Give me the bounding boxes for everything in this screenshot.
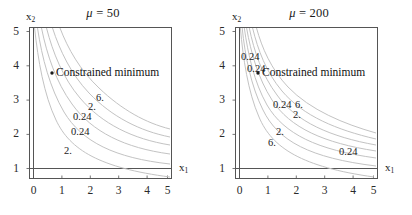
panel-left-xtick-2: 2 [83, 184, 97, 196]
panel-right-minimum-annotation: Constrained minimum [262, 66, 365, 78]
panel-right-xtick-5: 5 [367, 184, 381, 196]
panel-right-contour-label-024b: 0.24 [247, 63, 265, 74]
panel-left-plot [0, 0, 206, 215]
panel-left-contour-label-024b: 0.24 [71, 126, 89, 137]
panel-left-x-axis-label: x1 [179, 161, 188, 173]
panel-right-contour-label-024c: 0.24 [273, 99, 291, 110]
panel-left-contour-label-024a: 0.24 [73, 111, 91, 122]
panel-left-xtick-1: 1 [55, 184, 69, 196]
panel-left-minimum-annotation: Constrained minimum [56, 66, 159, 78]
panel-left-y-axis-label: x2 [26, 10, 35, 22]
panel-left-xtick-3: 3 [112, 184, 126, 196]
panel-right-ytick-1: 1 [215, 162, 229, 174]
panel-right-y-axis-label: x2 [232, 10, 241, 22]
panel-right-contour-label-024a: 0.24 [241, 51, 259, 62]
figure-contour-plots: μ = 50 [0, 0, 412, 215]
panel-right-ytick-2: 2 [215, 127, 229, 139]
panel-mu-200: μ = 200 [206, 0, 412, 215]
panel-right-xtick-3: 3 [318, 184, 332, 196]
panel-right-x-axis-label: x1 [385, 161, 394, 173]
panel-left-ytick-1: 1 [9, 162, 23, 174]
panel-left-ytick-5: 5 [9, 25, 23, 37]
panel-right-contour-label-2a: 2. [293, 109, 301, 120]
panel-right-xtick-4: 4 [346, 184, 360, 196]
panel-left-minimum-marker [50, 71, 53, 74]
panel-left-xtick-0: 0 [27, 184, 41, 196]
panel-right-plot [206, 0, 412, 215]
panel-left-xtick-5: 5 [161, 184, 175, 196]
panel-right-xtick-1: 1 [261, 184, 275, 196]
panel-right-ytick-5: 5 [215, 25, 229, 37]
panel-right-contour-label-024d: 0.24 [339, 146, 357, 157]
panel-right-xtick-2: 2 [289, 184, 303, 196]
panel-left-ytick-4: 4 [9, 59, 23, 71]
panel-right-ytick-4: 4 [215, 59, 229, 71]
panel-right-xtick-0: 0 [233, 184, 247, 196]
panel-left-ytick-2: 2 [9, 127, 23, 139]
panel-left-contour-label-6: 6. [96, 92, 104, 103]
panel-left-contour-label-2b: 2. [64, 145, 72, 156]
panel-mu-50: μ = 50 [0, 0, 206, 215]
panel-left-frame [30, 28, 172, 179]
panel-right-contour-label-2b: 2. [276, 126, 284, 137]
panel-right-ytick-3: 3 [215, 93, 229, 105]
panel-right-contour-label-6b: 6. [268, 137, 276, 148]
panel-left-xtick-4: 4 [140, 184, 154, 196]
panel-left-ytick-3: 3 [9, 93, 23, 105]
